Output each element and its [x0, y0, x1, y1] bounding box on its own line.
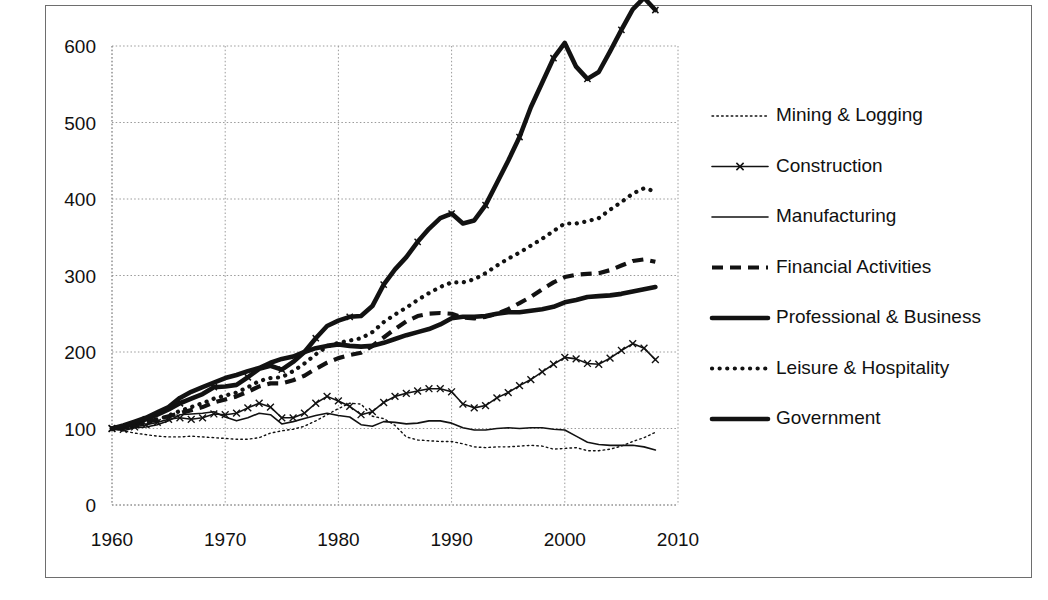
series-marker	[550, 361, 557, 368]
legend-label[interactable]: Financial Activities	[776, 256, 931, 277]
y-tick-label: 600	[64, 36, 96, 57]
legend-label[interactable]: Mining & Logging	[776, 104, 923, 125]
series-line	[112, 0, 655, 429]
series-marker	[652, 356, 659, 363]
x-tick-label: 2010	[657, 529, 699, 550]
series-marker	[301, 410, 308, 417]
y-tick-label: 200	[64, 342, 96, 363]
x-axis-tick-labels: 196019701980199020002010	[91, 529, 699, 550]
series-marker	[618, 347, 625, 354]
series-marker	[607, 355, 614, 362]
series-marker	[493, 395, 500, 402]
y-axis-tick-labels: 0100200300400500600	[64, 36, 96, 516]
series-line	[112, 403, 655, 450]
line-chart: 0100200300400500600 19601970198019902000…	[0, 0, 1048, 600]
series-marker	[505, 389, 512, 396]
legend-label[interactable]: Professional & Business	[776, 306, 981, 327]
y-tick-label: 0	[85, 495, 96, 516]
x-tick-label: 1990	[430, 529, 472, 550]
series-marker	[244, 404, 251, 411]
series-marker	[641, 345, 648, 352]
chart-legend: Mining & LoggingConstructionManufacturin…	[712, 104, 981, 428]
series-marker	[312, 400, 319, 407]
legend-label[interactable]: Construction	[776, 155, 883, 176]
series-marker	[324, 393, 331, 400]
x-tick-label: 1970	[204, 529, 246, 550]
chart-series-group	[109, 0, 659, 451]
legend-label[interactable]: Government	[776, 407, 881, 428]
series-marker	[539, 368, 546, 375]
series-marker	[629, 340, 636, 347]
chart-gridlines	[112, 46, 678, 505]
y-tick-label: 300	[64, 266, 96, 287]
y-tick-label: 500	[64, 113, 96, 134]
x-tick-label: 1980	[317, 529, 359, 550]
legend-label[interactable]: Manufacturing	[776, 205, 896, 226]
y-tick-label: 100	[64, 419, 96, 440]
x-tick-label: 2000	[544, 529, 586, 550]
series-marker	[380, 399, 387, 406]
series-marker	[516, 382, 523, 389]
x-tick-label: 1960	[91, 529, 133, 550]
y-tick-label: 400	[64, 189, 96, 210]
series-marker	[527, 376, 534, 383]
legend-label[interactable]: Leisure & Hospitality	[776, 357, 950, 378]
